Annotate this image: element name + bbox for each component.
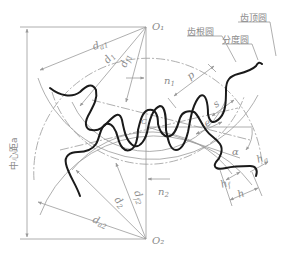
- n2-label: n2: [158, 186, 169, 199]
- o1-label: O₁: [152, 21, 164, 32]
- pitch-circle-2: [34, 58, 262, 180]
- addendum-circle-label: 齿顶圆: [240, 13, 267, 23]
- p-ext-1: [168, 98, 176, 108]
- da2-label: da2: [91, 214, 110, 232]
- p-label: p: [185, 69, 197, 82]
- alpha-arc: [246, 128, 252, 150]
- df2-label: df2: [130, 189, 147, 207]
- da1-label: da1: [91, 36, 110, 53]
- upper-radial-dimensions: [40, 27, 146, 106]
- o2-label: O₂: [152, 235, 164, 246]
- p-ext-2: [208, 64, 216, 72]
- alpha-label: α: [232, 146, 239, 157]
- d1-line: [80, 27, 146, 106]
- n1-label: n1: [164, 75, 175, 88]
- inner-circle-2: [72, 132, 232, 174]
- dedendum-circle-label: 齿根圆: [187, 26, 214, 37]
- df1-label: df1: [118, 52, 135, 69]
- s-label: s: [211, 98, 222, 110]
- pitch-circle-label: 分度圆: [222, 34, 249, 45]
- center-distance-label: 中心距a: [8, 137, 19, 170]
- d2-label: d2: [111, 194, 128, 211]
- gear-meshing-diagram: O₁ O₂ C da1 d1 df1 n1 n2 da2 d2 df2 p s …: [0, 0, 284, 258]
- p-dimension: [174, 66, 214, 96]
- tooth-dimensions: [168, 64, 268, 206]
- pitch-point-label: C: [141, 117, 147, 126]
- hf-dimension: [226, 172, 240, 180]
